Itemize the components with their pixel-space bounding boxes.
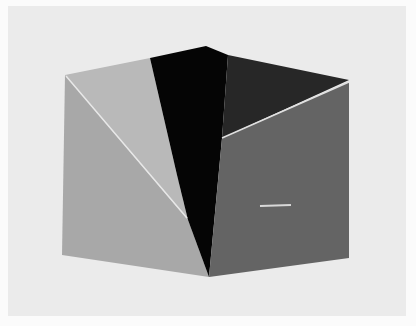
geometric-composition [0,0,416,326]
small-dash [260,205,291,206]
